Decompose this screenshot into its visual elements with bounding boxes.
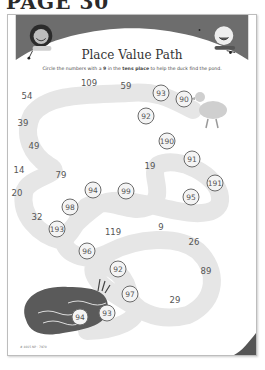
circled-number[interactable]: 94: [85, 182, 102, 199]
circled-number[interactable]: 96: [79, 243, 96, 260]
circled-number[interactable]: 95: [183, 189, 200, 206]
path-number[interactable]: 119: [105, 227, 121, 237]
circled-number[interactable]: 99: [118, 183, 135, 200]
page-corner: [234, 333, 256, 355]
path-number[interactable]: 89: [201, 266, 212, 276]
path-number[interactable]: 29: [170, 295, 181, 305]
circled-number[interactable]: 98: [62, 199, 79, 216]
path-number[interactable]: 26: [189, 237, 200, 247]
path-number[interactable]: 49: [29, 141, 40, 151]
path-number[interactable]: 59: [121, 81, 132, 91]
path-number[interactable]: 20: [12, 188, 23, 198]
circled-number[interactable]: 193: [49, 221, 66, 238]
circled-number[interactable]: 90: [176, 91, 193, 108]
circled-number[interactable]: 91: [184, 151, 201, 168]
circled-number[interactable]: 93: [153, 85, 170, 102]
circled-number[interactable]: 92: [138, 108, 155, 125]
worksheet: Place Value Path Circle the numbers with…: [7, 14, 257, 356]
path-number[interactable]: 79: [56, 170, 67, 180]
circled-number[interactable]: 190: [159, 133, 176, 150]
circled-number[interactable]: 93: [99, 305, 116, 322]
circled-number[interactable]: 97: [122, 286, 139, 303]
path-number[interactable]: 19: [145, 161, 156, 171]
circled-number[interactable]: 94: [72, 309, 89, 326]
path-number[interactable]: 32: [32, 212, 43, 222]
path-number[interactable]: 54: [22, 91, 33, 101]
path-number[interactable]: 14: [14, 165, 25, 175]
page-label: PAGE 30: [6, 0, 109, 14]
path-number[interactable]: 39: [18, 118, 29, 128]
circled-number[interactable]: 191: [207, 175, 224, 192]
path-number[interactable]: 109: [81, 78, 97, 88]
footer-code: # 4015 NP · 7970: [20, 345, 47, 349]
circled-number[interactable]: 92: [110, 261, 127, 278]
path-number[interactable]: 9: [158, 222, 163, 232]
